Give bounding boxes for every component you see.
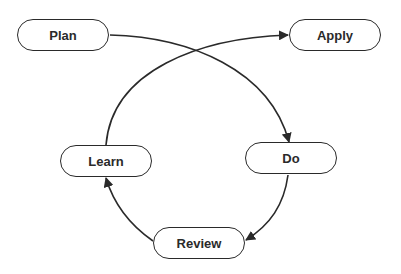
node-apply: Apply bbox=[289, 19, 381, 51]
edge-review-to-learn bbox=[106, 178, 153, 241]
node-learn: Learn bbox=[60, 145, 152, 177]
edge-plan-to-do bbox=[110, 35, 289, 142]
node-review-label: Review bbox=[177, 236, 222, 251]
node-plan: Plan bbox=[17, 19, 109, 51]
node-learn-label: Learn bbox=[88, 154, 123, 169]
node-do-label: Do bbox=[282, 151, 299, 166]
node-plan-label: Plan bbox=[49, 28, 76, 43]
node-apply-label: Apply bbox=[317, 28, 353, 43]
edge-do-to-review bbox=[246, 175, 288, 240]
node-do: Do bbox=[245, 142, 337, 174]
node-review: Review bbox=[153, 227, 245, 259]
